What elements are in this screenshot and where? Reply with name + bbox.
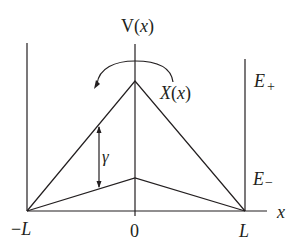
- arc-arrowhead-icon: [94, 80, 100, 89]
- operator-label: X(x): [159, 83, 191, 104]
- lower-potential-curve: [27, 178, 245, 211]
- gamma-label: γ: [102, 147, 110, 166]
- v-axis-label: V(x): [121, 16, 154, 37]
- e-minus-label: E−: [252, 169, 273, 190]
- tick-label-l: L: [238, 221, 249, 241]
- x-axis-label: x: [276, 202, 285, 222]
- tick-label-zero: 0: [130, 221, 139, 241]
- potential-diagram: V(x) X(x) E+ E− x γ −L 0 L: [0, 0, 306, 247]
- e-plus-label: E+: [253, 71, 275, 94]
- gamma-arrowhead-down-icon: [97, 181, 102, 188]
- upper-potential-curve: [27, 81, 245, 211]
- tick-label-minus-l: −L: [11, 219, 31, 239]
